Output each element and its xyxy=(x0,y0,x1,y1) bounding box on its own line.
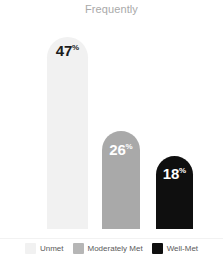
bar-value-number-moderately-met: 26 xyxy=(109,141,125,158)
percent-sign-moderately-met: % xyxy=(126,142,133,151)
legend-swatch-unmet-icon xyxy=(25,243,36,254)
legend-swatch-moderately-met-icon xyxy=(73,243,84,254)
legend-label-moderately-met: Moderately Met xyxy=(88,245,143,253)
legend-item-moderately-met[interactable]: Moderately Met xyxy=(73,243,143,254)
chart-title: Frequently xyxy=(0,3,223,15)
bar-chart: Frequently 47% 26% 18% Unmet Moderately … xyxy=(0,0,223,277)
legend-item-well-met[interactable]: Well-Met xyxy=(152,243,198,254)
plot-area: 47% 26% 18% xyxy=(0,22,223,229)
percent-sign-unmet: % xyxy=(72,43,79,52)
legend-divider xyxy=(0,238,223,239)
bar-unmet xyxy=(47,37,88,229)
bar-value-number-unmet: 47 xyxy=(56,42,72,59)
legend-item-unmet[interactable]: Unmet xyxy=(25,243,64,254)
bar-value-number-well-met: 18 xyxy=(163,165,179,182)
legend: Unmet Moderately Met Well-Met xyxy=(0,243,223,254)
bar-value-unmet: 47% xyxy=(47,43,88,58)
legend-label-well-met: Well-Met xyxy=(167,245,198,253)
bar-value-moderately-met: 26% xyxy=(102,142,140,157)
bar-value-well-met: 18% xyxy=(156,166,193,181)
percent-sign-well-met: % xyxy=(179,166,186,175)
legend-swatch-well-met-icon xyxy=(152,243,163,254)
legend-label-unmet: Unmet xyxy=(40,245,64,253)
